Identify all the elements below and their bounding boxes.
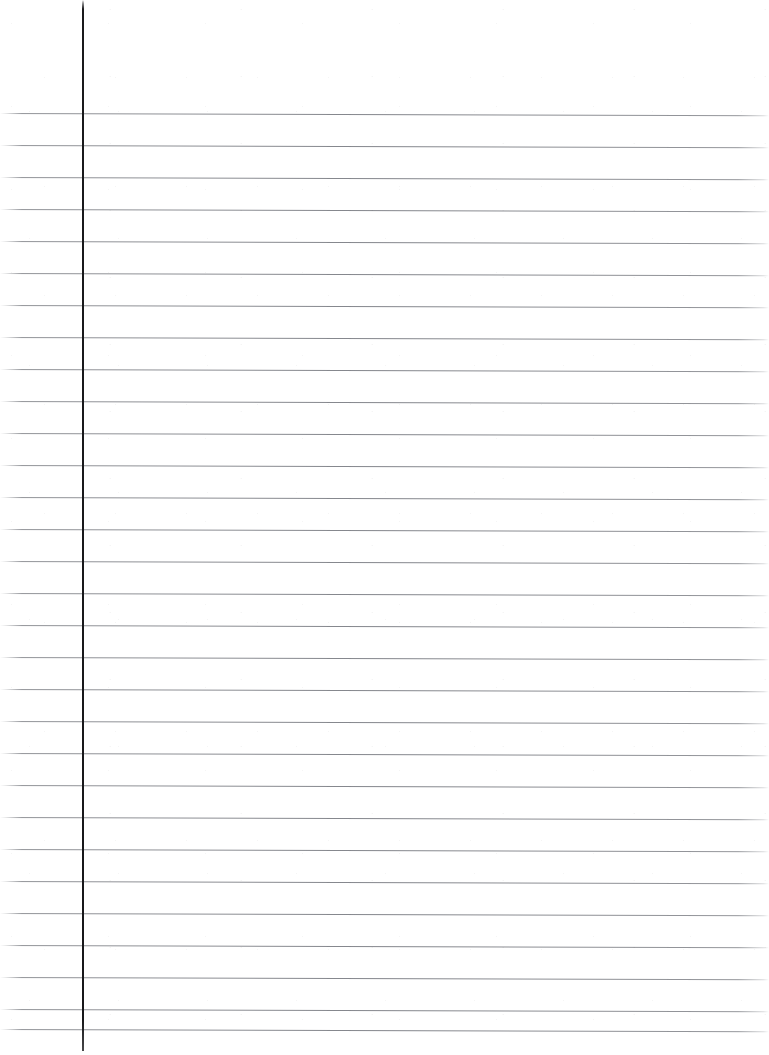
left-margin-column bbox=[0, 0, 82, 1055]
notebook-page bbox=[0, 0, 769, 1055]
vertical-margin-line bbox=[82, 0, 84, 1051]
writing-area bbox=[84, 0, 769, 1055]
